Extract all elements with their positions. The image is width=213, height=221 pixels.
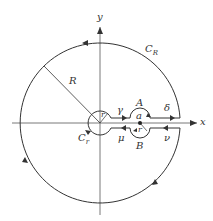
contour-svg xyxy=(0,0,213,221)
label-CR: CR xyxy=(145,44,158,57)
label-small-r: r xyxy=(101,111,105,119)
y-axis-label: y xyxy=(97,12,103,22)
x-axis-label: x xyxy=(200,117,206,127)
label-Cr: Cr xyxy=(78,133,89,146)
label-r-at-a: r xyxy=(138,126,142,134)
label-gamma: γ xyxy=(117,105,123,115)
label-R: R xyxy=(69,76,77,86)
label-a: a xyxy=(136,111,142,121)
label-mu: μ xyxy=(118,133,125,143)
label-nu: ν xyxy=(164,133,170,143)
label-delta: δ xyxy=(164,103,170,113)
contour-diagram: y x CR R r Cr γ A δ a r μ B ν xyxy=(0,0,213,221)
label-A: A xyxy=(136,98,143,108)
label-B: B xyxy=(136,141,143,151)
